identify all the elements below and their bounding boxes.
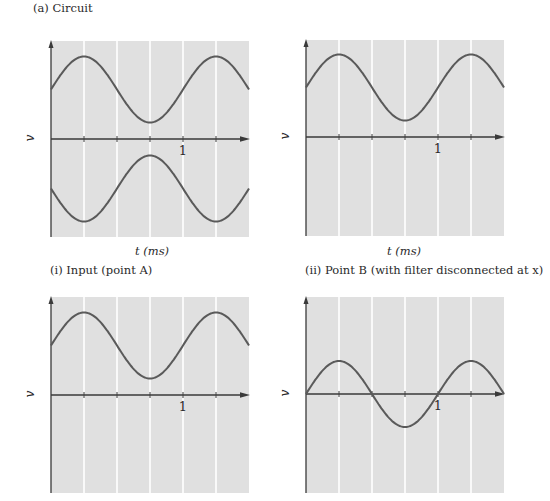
x-tick-label: 1: [179, 143, 187, 158]
chart-canvas: 1111: [0, 0, 550, 501]
x-tick-label: 1: [434, 141, 442, 156]
x-tick-label: 1: [179, 399, 187, 414]
